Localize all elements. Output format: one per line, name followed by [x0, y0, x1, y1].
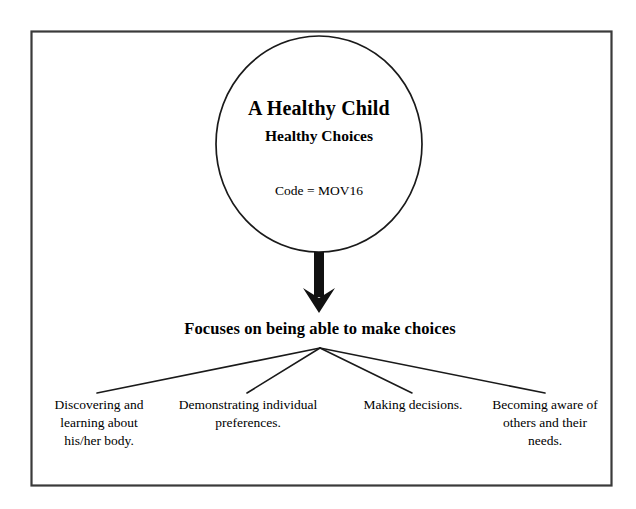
- down-arrow-icon: [303, 252, 335, 313]
- branch-line-3: [320, 348, 412, 393]
- branch-connector-lines: [97, 348, 545, 393]
- leaf-node-1: Discovering and learning about his/her b…: [38, 396, 160, 449]
- leaf-node-4: Becoming aware of others and their needs…: [484, 396, 606, 449]
- leaf-node-2: Demonstrating individual preferences.: [168, 396, 328, 432]
- leaf-node-3: Making decisions.: [348, 396, 478, 414]
- branch-heading: Focuses on being able to make choices: [138, 318, 502, 340]
- root-node-subtitle: Healthy Choices: [216, 126, 422, 146]
- root-node-code: Code = MOV16: [216, 182, 422, 200]
- branch-line-4: [320, 348, 545, 393]
- branch-line-1: [97, 348, 320, 393]
- diagram-canvas: A Healthy Child Healthy Choices Code = M…: [0, 0, 636, 509]
- root-node-title: A Healthy Child: [216, 95, 422, 121]
